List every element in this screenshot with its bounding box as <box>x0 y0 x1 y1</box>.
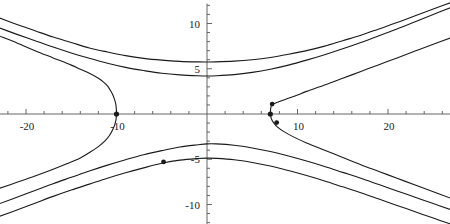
curve-hyperbola-lower-outer <box>0 158 450 224</box>
curve-hyperbola-left-branch-lower <box>0 114 117 188</box>
curve-hyperbola-left-branch-upper <box>0 36 117 114</box>
curve-hyperbola-upper-outer <box>0 3 450 62</box>
y-tick-label: 10 <box>189 18 201 30</box>
y-tick-label: 5 <box>195 63 201 75</box>
marker-point-lower-left <box>161 160 166 165</box>
marker-point-right-lower <box>274 120 279 125</box>
curve-hyperbola-lower-middle <box>0 144 450 210</box>
marker-point-right-upper <box>270 102 275 107</box>
plot-canvas: -20-101020-10-5510 <box>0 0 450 224</box>
y-tick-label: -10 <box>185 199 200 211</box>
marker-vertex-left <box>114 111 119 116</box>
marker-vertex-right <box>268 111 273 116</box>
hyperbola-plot: -20-101020-10-5510 <box>0 0 450 224</box>
x-tick-label: 10 <box>293 120 305 132</box>
x-tick-label: -20 <box>20 120 35 132</box>
x-tick-label: 20 <box>384 120 396 132</box>
curve-hyperbola-right-branch-upper <box>270 38 450 114</box>
